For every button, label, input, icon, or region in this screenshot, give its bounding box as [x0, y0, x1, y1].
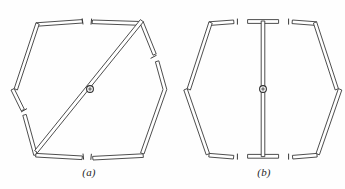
member-a-left-vertex-connector — [11, 89, 24, 111]
figure-container: (a) (b) — [0, 0, 345, 189]
member-a-lower-left-slant — [21, 109, 37, 156]
panel-a-linkage — [11, 18, 167, 160]
member-b-bottom-left — [209, 153, 238, 159]
member-b-lower-right-slant — [316, 89, 342, 155]
member-b-top-right — [289, 19, 317, 26]
member-a-top-left — [36, 18, 83, 26]
member-b-bottom-right — [289, 153, 318, 159]
member-a-bottom-left — [36, 153, 84, 159]
member-a-lower-right-slant — [141, 61, 167, 154]
panel-label-a: (a) — [69, 166, 109, 178]
panel-b-linkage — [184, 19, 342, 160]
panel-label-b: (b) — [244, 166, 284, 178]
member-a-top-right — [91, 19, 143, 26]
member-b-upper-right-slant — [313, 22, 338, 90]
member-b-upper-left-slant — [187, 22, 212, 90]
member-b-top-left — [209, 19, 237, 26]
member-a-upper-left-slant — [14, 23, 39, 90]
linkage-diagram-canvas — [0, 0, 345, 189]
member-a-bottom-right — [91, 154, 144, 160]
member-b-lower-left-slant — [184, 89, 210, 155]
member-a-upper-right-slant — [140, 22, 157, 59]
pivot-a — [87, 86, 94, 93]
pivot-b — [260, 86, 267, 93]
